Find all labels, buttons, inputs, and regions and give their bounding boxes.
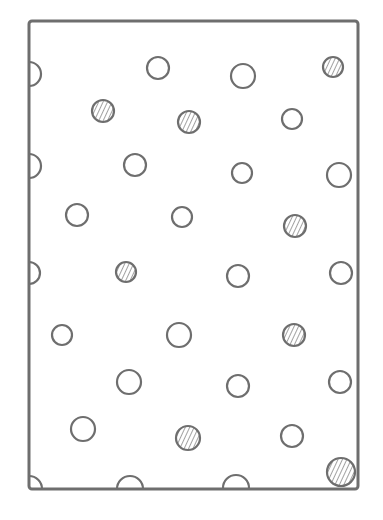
open-circle [52, 325, 72, 345]
open-circle [281, 425, 303, 447]
circle-pattern-diagram [0, 0, 383, 520]
open-circle [147, 57, 169, 79]
open-circle [167, 323, 191, 347]
open-circle [117, 370, 141, 394]
hatched-circle [283, 324, 305, 346]
circles-group [16, 57, 355, 502]
hatched-circle [116, 262, 136, 282]
open-circle [227, 375, 249, 397]
hatched-circle [327, 458, 355, 486]
hatched-circle [178, 111, 200, 133]
open-circle [327, 163, 351, 187]
open-circle [172, 207, 192, 227]
open-circle [71, 417, 95, 441]
hatched-circle [284, 215, 306, 237]
open-circle [66, 204, 88, 226]
open-circle [232, 163, 252, 183]
open-circle [231, 64, 255, 88]
open-circle [330, 262, 352, 284]
open-circle [329, 371, 351, 393]
open-circle [227, 265, 249, 287]
hatched-circle [323, 57, 343, 77]
hatched-circle [176, 426, 200, 450]
hatched-circle [92, 100, 114, 122]
open-circle [124, 154, 146, 176]
open-circle [282, 109, 302, 129]
